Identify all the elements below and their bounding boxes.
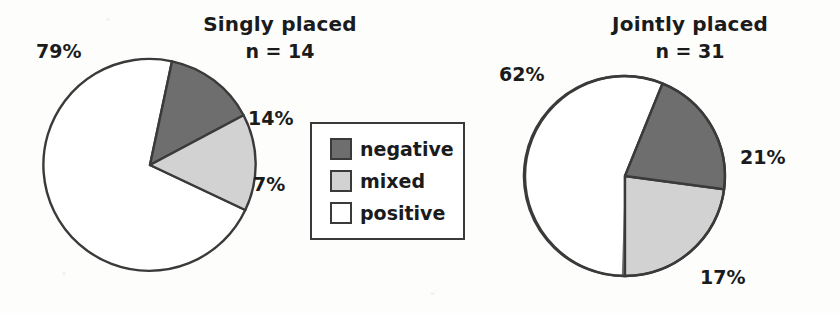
legend-item-negative: negative bbox=[330, 133, 454, 165]
legend-item-mixed: mixed bbox=[330, 165, 454, 197]
legend-label-negative: negative bbox=[360, 140, 454, 159]
legend-item-positive: positive bbox=[330, 197, 454, 229]
legend-swatch-negative-icon bbox=[330, 138, 352, 160]
pie-label-positive-singly: 79% bbox=[36, 40, 81, 62]
pie-slice-mixed bbox=[625, 176, 724, 276]
pie-label-mixed-singly: 7% bbox=[253, 173, 285, 195]
chart-title-singly-placed: Singly placed bbox=[190, 12, 370, 36]
pie-jointly-placed bbox=[517, 68, 733, 284]
chart-subtitle-jointly-placed: n = 31 bbox=[600, 40, 780, 62]
chart-title-jointly-placed: Jointly placed bbox=[600, 12, 780, 36]
chart-panel-jointly-placed: Jointly placed n = 31 62% 21% 17% bbox=[470, 0, 840, 313]
pie-label-mixed-jointly: 17% bbox=[700, 266, 745, 288]
pie-label-positive-jointly: 62% bbox=[499, 63, 544, 85]
pie-label-negative-singly: 14% bbox=[248, 107, 293, 129]
scan-speckle bbox=[430, 292, 435, 295]
legend-label-positive: positive bbox=[360, 204, 445, 223]
legend-swatch-positive-icon bbox=[330, 202, 352, 224]
legend: negative mixed positive bbox=[310, 122, 465, 240]
pie-label-negative-jointly: 21% bbox=[740, 146, 785, 168]
legend-label-mixed: mixed bbox=[360, 172, 425, 191]
chart-panel-singly-placed: Singly placed n = 14 79% 14% 7% bbox=[0, 0, 300, 313]
legend-items: negative mixed positive bbox=[330, 133, 454, 229]
legend-swatch-mixed-icon bbox=[330, 170, 352, 192]
pie-singly-placed bbox=[35, 50, 265, 280]
pie-chart-figure: Singly placed n = 14 79% 14% 7% negative… bbox=[0, 0, 840, 313]
